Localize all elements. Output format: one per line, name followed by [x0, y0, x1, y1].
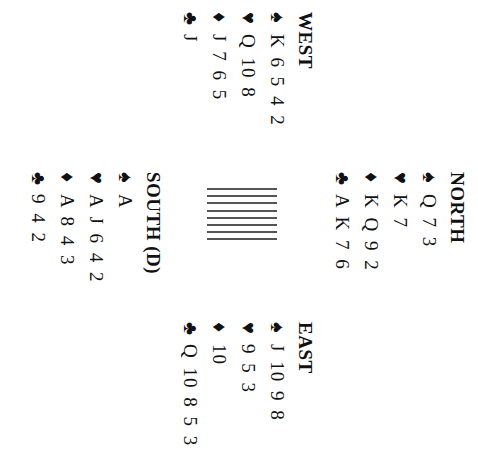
cards: A J 6 4 2 — [82, 194, 111, 283]
club-icon: ♣ — [176, 322, 205, 344]
spade-icon: ♠ — [263, 12, 292, 34]
table-line — [207, 202, 277, 204]
suit-row-clubs: ♣9 4 2 — [24, 172, 53, 283]
heart-icon: ♥ — [82, 172, 111, 194]
cards: J 7 6 5 — [205, 34, 234, 100]
cards: Q 10 8 5 3 — [176, 344, 205, 446]
hand-title: SOUTH (D) — [140, 172, 166, 283]
cards: Q 7 3 — [415, 194, 444, 247]
suit-row-spades: ♠A — [111, 172, 140, 283]
heart-icon: ♥ — [386, 172, 415, 194]
spade-icon: ♠ — [111, 172, 140, 194]
hand-south: SOUTH (D) ♠A ♥A J 6 4 2 ♦A 8 4 3 ♣9 4 2 — [24, 172, 166, 283]
cards: Q 10 8 — [234, 34, 263, 98]
table-line — [207, 195, 277, 197]
suit-row-clubs: ♣A K 7 6 — [328, 172, 357, 271]
cards: J 10 9 8 — [263, 344, 292, 421]
cards: J — [176, 34, 205, 42]
hand-north: NORTH ♠Q 7 3 ♥K 7 ♦K Q 9 2 ♣A K 7 6 — [328, 172, 470, 271]
diamond-icon: ♦ — [357, 172, 386, 194]
suit-row-clubs: ♣J — [176, 12, 205, 126]
cards: K 7 — [386, 194, 415, 228]
hand-title: NORTH — [444, 172, 470, 271]
hand-east: EAST ♠J 10 9 8 ♥9 5 3 ♦10 ♣Q 10 8 5 3 — [176, 322, 318, 446]
table-line — [207, 231, 277, 233]
spade-icon: ♠ — [415, 172, 444, 194]
spade-icon: ♠ — [263, 322, 292, 344]
suit-row-hearts: ♥K 7 — [386, 172, 415, 271]
heart-icon: ♥ — [234, 322, 263, 344]
cards: A 8 4 3 — [53, 194, 82, 265]
cards: 10 — [205, 344, 234, 365]
cards: 9 5 3 — [234, 344, 263, 393]
heart-icon: ♥ — [234, 12, 263, 34]
card-table-icon — [207, 188, 277, 244]
suit-row-clubs: ♣Q 10 8 5 3 — [176, 322, 205, 446]
hand-title: EAST — [292, 322, 318, 446]
club-icon: ♣ — [328, 172, 357, 194]
diamond-icon: ♦ — [53, 172, 82, 194]
hand-west: WEST ♠K 6 5 4 2 ♥Q 10 8 ♦J 7 6 5 ♣J — [176, 12, 318, 126]
suit-row-diamonds: ♦A 8 4 3 — [53, 172, 82, 283]
suit-row-hearts: ♥Q 10 8 — [234, 12, 263, 126]
table-line — [207, 188, 277, 190]
club-icon: ♣ — [176, 12, 205, 34]
table-line — [207, 224, 277, 226]
hand-title: WEST — [292, 12, 318, 126]
cards: A K 7 6 — [328, 194, 357, 270]
diamond-icon: ♦ — [205, 12, 234, 34]
suit-row-hearts: ♥9 5 3 — [234, 322, 263, 446]
suit-row-spades: ♠K 6 5 4 2 — [263, 12, 292, 126]
club-icon: ♣ — [24, 172, 53, 194]
suit-row-diamonds: ♦J 7 6 5 — [205, 12, 234, 126]
cards: K 6 5 4 2 — [263, 34, 292, 126]
cards: K Q 9 2 — [357, 194, 386, 271]
cards: A — [111, 194, 140, 209]
table-line — [207, 238, 277, 240]
table-line — [207, 217, 277, 219]
diamond-icon: ♦ — [205, 322, 234, 344]
suit-row-hearts: ♥A J 6 4 2 — [82, 172, 111, 283]
suit-row-spades: ♠Q 7 3 — [415, 172, 444, 271]
suit-row-diamonds: ♦10 — [205, 322, 234, 446]
table-line — [207, 210, 277, 212]
suit-row-diamonds: ♦K Q 9 2 — [357, 172, 386, 271]
suit-row-spades: ♠J 10 9 8 — [263, 322, 292, 446]
cards: 9 4 2 — [24, 194, 53, 243]
